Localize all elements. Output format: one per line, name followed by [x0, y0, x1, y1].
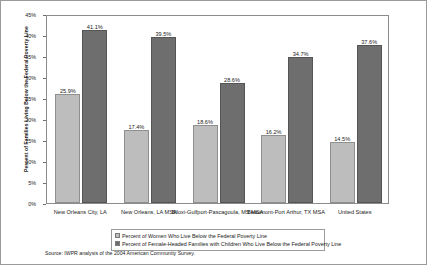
y-axis-tick-label: 0%: [2, 201, 36, 207]
bar-value-label: 28.6%: [210, 77, 254, 83]
y-axis-tick-mark: [43, 204, 46, 205]
legend-swatch-icon: [115, 233, 120, 238]
bar: [55, 94, 80, 203]
bar-value-label: 41.1%: [73, 24, 117, 30]
y-axis-tick-label: 10%: [2, 159, 36, 165]
y-axis-tick-label: 15%: [2, 138, 36, 144]
bar-value-label: 37.6%: [347, 39, 391, 45]
legend-item: Percent of Women Who Live Below the Fede…: [115, 232, 321, 240]
bar: [193, 125, 218, 203]
y-axis-tick-label: 25%: [2, 96, 36, 102]
chart-legend: Percent of Women Who Live Below the Fede…: [111, 229, 325, 251]
y-axis-tick-label: 45%: [2, 12, 36, 18]
y-axis-tick-label: 35%: [2, 54, 36, 60]
bar: [220, 83, 245, 203]
x-axis-category-label: United States: [309, 209, 401, 216]
source-note: Source: IWPR analysis of the 2004 Americ…: [45, 250, 195, 256]
bar-value-label: 39.5%: [141, 31, 185, 37]
bar: [288, 57, 313, 203]
y-axis-tick-label: 20%: [2, 117, 36, 123]
bar: [330, 142, 355, 203]
bar-value-label: 34.7%: [279, 51, 323, 57]
legend-item-label: Percent of Women Who Live Below the Fede…: [122, 233, 267, 239]
y-axis-tick-label: 5%: [2, 180, 36, 186]
bar: [82, 30, 107, 203]
bar: [151, 37, 176, 203]
legend-item: Percent of Female-Headed Families with C…: [115, 240, 321, 248]
bar: [357, 45, 382, 203]
legend-swatch-icon: [115, 241, 120, 246]
chart-container: Percent of Families Living Below the Fed…: [0, 0, 427, 265]
bar: [261, 135, 286, 203]
bar: [124, 130, 149, 203]
legend-item-label: Percent of Female-Headed Families with C…: [122, 241, 341, 247]
y-axis-tick-label: 30%: [2, 75, 36, 81]
plot-area: 25.9%41.1%17.4%39.5%18.6%28.6%16.2%34.7%…: [46, 15, 389, 204]
y-axis-tick-label: 40%: [2, 33, 36, 39]
